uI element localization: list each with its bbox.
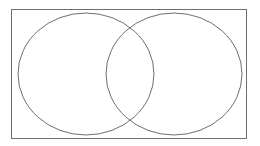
venn-diagram [0, 0, 260, 146]
set-b-circle [106, 13, 242, 135]
set-a-circle [18, 13, 154, 135]
